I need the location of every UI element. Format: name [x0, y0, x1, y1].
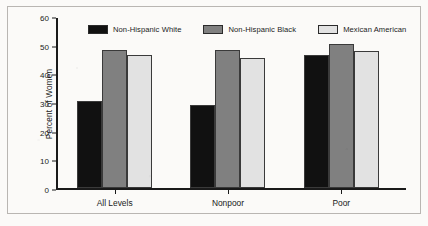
bar	[329, 44, 354, 188]
x-axis-line	[56, 188, 406, 190]
bar	[77, 101, 102, 188]
y-axis-title: Percent of Women	[45, 69, 54, 139]
legend-item: Non-Hispanic White	[88, 25, 181, 34]
legend-item: Non-Hispanic Black	[203, 25, 296, 34]
y-tick-label: 0	[35, 186, 49, 195]
y-tick-mark	[52, 161, 56, 162]
legend-swatch-icon	[203, 25, 223, 34]
x-axis-tick-mark	[228, 189, 229, 194]
x-axis-label: All Levels	[97, 198, 133, 208]
legend-swatch-icon	[318, 25, 338, 34]
bar-group: All Levels	[58, 18, 171, 188]
bar	[354, 51, 379, 188]
y-tick-mark	[52, 18, 56, 19]
bar-group: Nonpoor	[171, 18, 284, 188]
chart-figure: Non-Hispanic WhiteNon-Hispanic BlackMexi…	[0, 0, 428, 226]
x-axis-label: Poor	[332, 198, 350, 208]
y-tick-mark	[52, 46, 56, 47]
bar	[190, 105, 215, 188]
legend-item: Mexican American	[318, 25, 406, 34]
bar	[215, 50, 240, 188]
bar-group: Poor	[285, 18, 398, 188]
x-axis-tick-mark	[341, 189, 342, 194]
chart-legend: Non-Hispanic WhiteNon-Hispanic BlackMexi…	[88, 25, 406, 34]
y-tick-label: 50	[35, 42, 49, 51]
x-axis-tick-mark	[115, 189, 116, 194]
y-tick-label: 60	[35, 14, 49, 23]
bar	[240, 58, 265, 188]
y-tick-mark	[52, 190, 56, 191]
y-axis-tick: 50	[35, 42, 56, 51]
x-axis-label: Nonpoor	[212, 198, 244, 208]
legend-label: Mexican American	[343, 25, 406, 34]
y-axis-tick: 10	[35, 157, 56, 166]
y-axis-tick: 0	[35, 186, 56, 195]
plot-area: 0102030405060 Percent of Women All Level…	[56, 18, 398, 190]
legend-label: Non-Hispanic White	[113, 25, 181, 34]
bar	[127, 55, 152, 188]
bar	[304, 55, 329, 188]
legend-label: Non-Hispanic Black	[228, 25, 296, 34]
bar-groups: All LevelsNonpoorPoor	[58, 18, 398, 188]
y-tick-label: 10	[35, 157, 49, 166]
bar	[102, 50, 127, 188]
y-axis-tick: 60	[35, 14, 56, 23]
legend-swatch-icon	[88, 25, 108, 34]
